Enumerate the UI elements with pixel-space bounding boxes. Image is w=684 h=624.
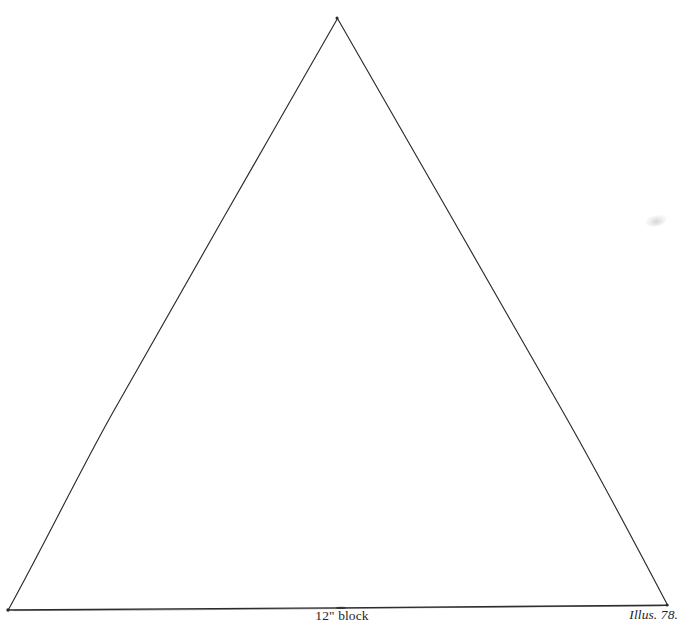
base-dimension-label: 12" block [0, 609, 684, 623]
triangle-left-edge [9, 19, 338, 610]
figure-page: 12" block Illus. 78. [0, 0, 684, 624]
triangle-right-edge [338, 19, 668, 606]
triangle-figure [0, 0, 684, 624]
apex-nib-mark [336, 17, 339, 20]
illustration-number-label: Illus. 78. [629, 608, 678, 622]
